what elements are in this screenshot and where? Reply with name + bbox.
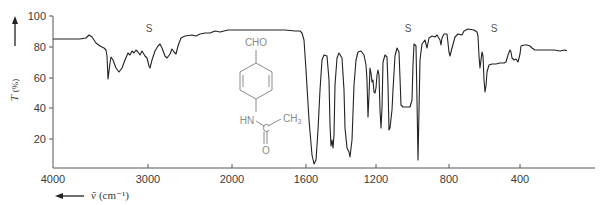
x-tick-label: 400	[511, 173, 529, 185]
y-axis: 100 80 60 40 20	[28, 10, 53, 168]
y-tick-label: 60	[34, 72, 46, 84]
x-tick-label: 2000	[220, 173, 244, 185]
x-axis: 4000 3000 2000 1600 1200 800 400	[41, 164, 595, 185]
y-tick-label: 40	[34, 102, 46, 114]
y-title-var: T	[8, 94, 20, 101]
x-tick-label: 800	[440, 173, 458, 185]
solvent-marker: S	[491, 23, 498, 34]
x-tick-label: 1600	[294, 173, 318, 185]
solvent-marker: S	[405, 23, 412, 34]
x-axis-title: ṽ(cm⁻¹)	[55, 189, 129, 202]
y-tick-label: 80	[34, 41, 46, 53]
molecule-label-o: O	[262, 145, 270, 156]
y-tick-label: 20	[34, 133, 46, 145]
y-axis-title: T(%)	[8, 16, 20, 101]
spectrum-line	[53, 29, 567, 164]
molecule-label-cho: CHO	[245, 37, 267, 48]
molecule-structure	[240, 50, 281, 144]
svg-text:T(%): T(%)	[8, 79, 20, 102]
y-title-unit: (%)	[10, 79, 20, 93]
chart-canvas: 100 80 60 40 20 T(%) 4000 3000 2000 1600…	[0, 0, 601, 205]
molecule-label-c: C	[262, 123, 269, 134]
x-title-unit: (cm⁻¹)	[99, 189, 129, 202]
ir-spectrum-chart: 100 80 60 40 20 T(%) 4000 3000 2000 1600…	[0, 0, 601, 205]
arrowhead-up-icon	[12, 16, 18, 24]
svg-text:ṽ(cm⁻¹): ṽ(cm⁻¹)	[91, 189, 129, 202]
molecule-label-ch3: CH3	[283, 113, 301, 125]
x-title-var: ṽ	[91, 189, 97, 201]
x-tick-label: 1200	[364, 173, 388, 185]
solvent-marker: S	[146, 23, 153, 34]
x-tick-label: 4000	[41, 173, 65, 185]
x-tick-label: 3000	[136, 173, 160, 185]
arrowhead-left-icon	[55, 193, 63, 199]
molecule-label-hn: HN	[240, 115, 254, 126]
y-tick-label: 100	[28, 10, 46, 22]
